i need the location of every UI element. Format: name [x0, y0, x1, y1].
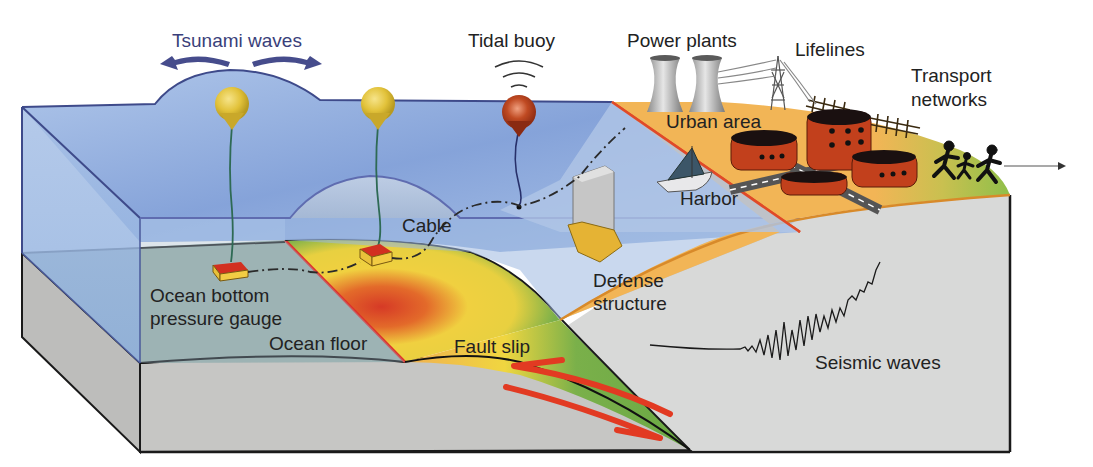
label-defense-line1: Defense — [593, 270, 664, 291]
building-3 — [852, 150, 917, 187]
label-tsunami-waves: Tsunami waves — [172, 30, 302, 51]
wave-arrow-left-icon — [160, 56, 230, 70]
building-4 — [781, 171, 847, 195]
label-tidal-buoy: Tidal buoy — [468, 30, 555, 51]
label-urban-area: Urban area — [666, 111, 761, 132]
tsunami-wave-arrows — [160, 56, 322, 70]
label-lifelines: Lifelines — [795, 39, 865, 60]
wave-arrow-right-icon — [252, 56, 322, 70]
label-seismic-waves: Seismic waves — [815, 352, 941, 373]
tsunami-hazard-diagram: Tsunami waves Tidal buoy Power plants Li… — [0, 0, 1093, 467]
label-ocean-floor: Ocean floor — [269, 333, 368, 354]
label-gauge-line1: Ocean bottom — [150, 285, 269, 306]
label-cable: Cable — [402, 215, 452, 236]
building-1 — [731, 130, 797, 170]
label-power-plants: Power plants — [627, 30, 737, 51]
evacuation-arrow-icon — [1004, 162, 1066, 170]
label-transport-line1: Transport — [911, 65, 992, 86]
defense-structure — [568, 166, 622, 262]
signal-waves-icon — [495, 61, 543, 87]
label-transport-line2: networks — [911, 89, 987, 110]
label-defense-line2: structure — [593, 293, 667, 314]
transmission-tower — [718, 56, 816, 110]
pressure-gauge-1 — [213, 262, 248, 281]
label-fault-slip: Fault slip — [454, 336, 530, 357]
label-gauge-line2: pressure gauge — [150, 308, 282, 329]
label-harbor: Harbor — [680, 188, 739, 209]
